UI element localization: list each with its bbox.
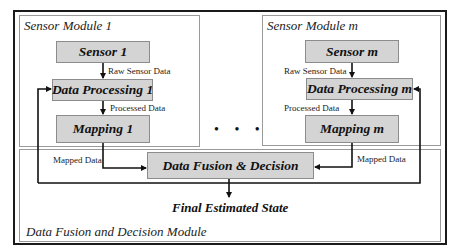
connection-arrows	[0, 0, 454, 252]
